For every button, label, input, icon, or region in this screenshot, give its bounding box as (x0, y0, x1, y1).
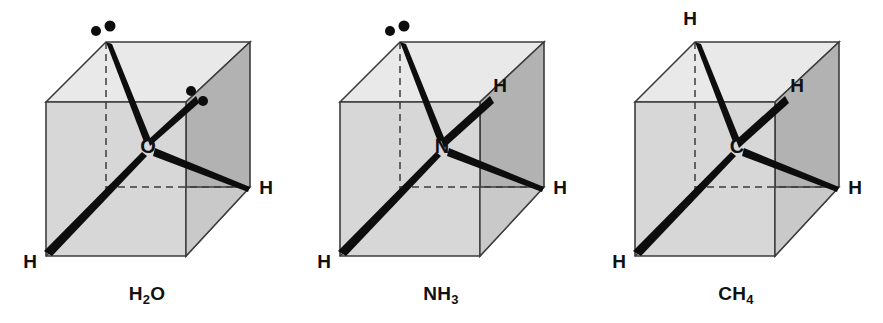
cube-interior-wedge (480, 187, 544, 256)
caption-ammonia-element: N (423, 283, 437, 304)
cube-interior-wedge (186, 187, 250, 256)
caption-ammonia-subscript: 3 (451, 292, 458, 307)
caption-methane: CH4 (589, 284, 883, 303)
lone-pair-dot (105, 21, 116, 32)
center-atom-label-carbon: C (730, 135, 744, 157)
hydrogen-label-right: H (848, 177, 862, 198)
lone-pair-dot (385, 26, 395, 36)
hydrogen-label-upper-right: H (790, 75, 804, 96)
caption-water-element2: O (150, 283, 165, 304)
caption-methane-element2: H (732, 283, 746, 304)
molecule-panel-ammonia: N H H H NH3 (294, 0, 588, 323)
methane-cube-diagram: C H H H H (589, 0, 883, 323)
lone-pair-dot (198, 96, 208, 106)
center-atom-label-nitrogen: N (435, 135, 449, 157)
lone-pair-dot (399, 21, 410, 32)
hydrogen-label-lower-left: H (23, 251, 37, 272)
hydrogen-label-right: H (553, 177, 567, 198)
caption-ammonia: NH3 (294, 284, 588, 303)
cube-interior-wedge (775, 187, 839, 256)
caption-methane-element: C (718, 283, 732, 304)
hydrogen-label-lower-left: H (317, 251, 331, 272)
molecule-panel-methane: C H H H H CH4 (589, 0, 883, 323)
caption-water: H2O (0, 284, 294, 303)
hydrogen-label-right: H (259, 177, 273, 198)
caption-ammonia-element2: H (437, 283, 451, 304)
caption-methane-subscript: 4 (746, 292, 753, 307)
hydrogen-label-top-left: H (683, 8, 697, 29)
center-atom-label-oxygen: O (140, 135, 156, 157)
molecular-geometry-figure: O H H H2O N H H H (0, 0, 883, 323)
lone-pair-dot (91, 26, 101, 36)
molecule-panel-water: O H H H2O (0, 0, 294, 323)
caption-water-element: H (129, 283, 143, 304)
lone-pair-dot (186, 86, 196, 96)
water-cube-diagram: O H H (0, 0, 294, 323)
hydrogen-label-lower-left: H (612, 251, 626, 272)
ammonia-cube-diagram: N H H H (294, 0, 588, 323)
hydrogen-label-upper-right: H (493, 75, 507, 96)
